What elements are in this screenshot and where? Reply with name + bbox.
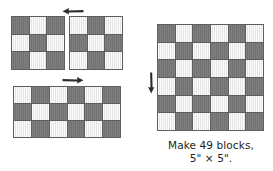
patch-dark <box>88 52 105 69</box>
patch-light <box>105 52 122 69</box>
patch-dark <box>211 113 228 130</box>
patch-dark <box>32 121 49 137</box>
block-quilt-6x6 <box>157 24 264 131</box>
patch-dark <box>246 113 263 130</box>
patch-light <box>14 87 31 103</box>
patch-dark <box>30 35 47 52</box>
patch-dark <box>176 43 193 60</box>
patch-light <box>193 113 210 130</box>
patch-dark <box>103 121 120 137</box>
patch-light <box>12 35 29 52</box>
patch-dark <box>193 25 210 42</box>
patch-light <box>193 43 210 60</box>
patch-light <box>70 52 87 69</box>
patch-light <box>158 43 175 60</box>
patch-light <box>50 121 67 137</box>
figure-caption: Make 49 blocks, 5" × 5". <box>150 139 272 164</box>
patch-light <box>176 60 193 77</box>
patch-dark <box>158 96 175 113</box>
patch-dark <box>70 35 87 52</box>
patch-dark <box>229 60 246 77</box>
patch-light <box>176 96 193 113</box>
patch-dark <box>14 104 31 120</box>
patch-light <box>176 25 193 42</box>
patch-light <box>229 78 246 95</box>
patch-dark <box>85 104 102 120</box>
patch-light <box>85 87 102 103</box>
block-b-3x3 <box>69 16 123 70</box>
patch-light <box>246 60 263 77</box>
block-strip-6x3 <box>13 86 121 138</box>
patch-dark <box>47 17 64 34</box>
block-a-3x3 <box>11 16 65 70</box>
pressing-arrow-down-icon <box>147 72 155 94</box>
patch-dark <box>229 25 246 42</box>
patch-dark <box>32 87 49 103</box>
patch-dark <box>12 17 29 34</box>
patch-dark <box>68 87 85 103</box>
patch-dark <box>176 78 193 95</box>
diagram-canvas: Make 49 blocks, 5" × 5". <box>0 0 273 171</box>
patch-light <box>47 35 64 52</box>
patch-light <box>158 78 175 95</box>
patch-dark <box>105 35 122 52</box>
patch-light <box>229 43 246 60</box>
patch-light <box>14 121 31 137</box>
patch-light <box>30 17 47 34</box>
patch-dark <box>88 17 105 34</box>
patch-dark <box>193 60 210 77</box>
patch-light <box>211 25 228 42</box>
patch-dark <box>50 104 67 120</box>
pressing-arrow-left-icon <box>62 7 84 15</box>
patch-light <box>103 104 120 120</box>
patch-light <box>105 17 122 34</box>
patch-light <box>50 87 67 103</box>
patch-light <box>32 104 49 120</box>
patch-dark <box>68 121 85 137</box>
patch-light <box>211 96 228 113</box>
pressing-arrow-right-icon <box>62 76 84 84</box>
patch-light <box>246 25 263 42</box>
patch-dark <box>176 113 193 130</box>
patch-dark <box>158 60 175 77</box>
patch-light <box>246 96 263 113</box>
patch-light <box>85 121 102 137</box>
patch-light <box>70 17 87 34</box>
patch-dark <box>193 96 210 113</box>
patch-dark <box>246 78 263 95</box>
patch-light <box>211 60 228 77</box>
patch-light <box>229 113 246 130</box>
patch-light <box>88 35 105 52</box>
patch-dark <box>229 96 246 113</box>
caption-line-2: 5" × 5". <box>150 152 272 165</box>
caption-line-1: Make 49 blocks, <box>150 139 272 152</box>
patch-dark <box>211 78 228 95</box>
patch-light <box>193 78 210 95</box>
patch-dark <box>158 25 175 42</box>
patch-dark <box>103 87 120 103</box>
patch-light <box>158 113 175 130</box>
patch-light <box>30 52 47 69</box>
patch-dark <box>47 52 64 69</box>
patch-light <box>68 104 85 120</box>
patch-dark <box>246 43 263 60</box>
patch-dark <box>211 43 228 60</box>
patch-dark <box>12 52 29 69</box>
